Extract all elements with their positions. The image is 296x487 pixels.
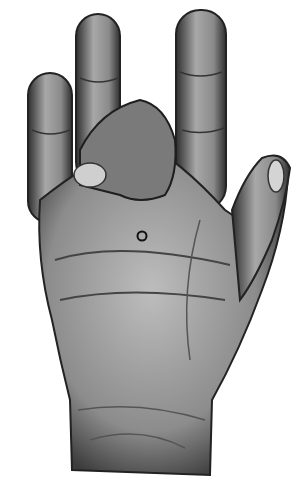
hand-drawing <box>0 0 296 487</box>
fingernail-middle <box>74 163 106 187</box>
hand-illustration <box>0 0 296 487</box>
fingernail-thumb <box>268 160 284 192</box>
